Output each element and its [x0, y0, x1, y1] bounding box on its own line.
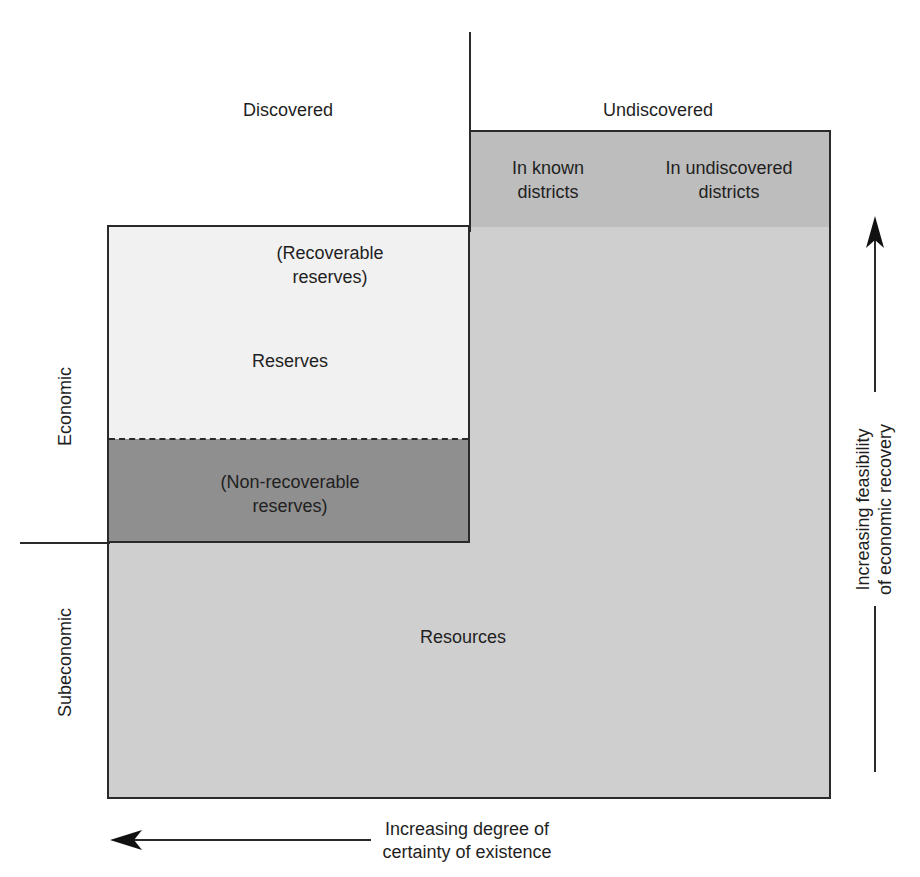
recoverable-reserves-label-1: (Recoverable [230, 242, 430, 265]
in-undiscovered-districts-label-2: districts [627, 181, 831, 204]
recoverable-reserves-label-2: reserves) [230, 266, 430, 289]
feasibility-axis-label-2: of economic recovery [874, 410, 897, 610]
resources-label: Resources [363, 626, 563, 649]
in-known-districts-label-1: In known [469, 157, 627, 180]
certainty-axis-label-2: certainty of existence [357, 841, 577, 864]
subeconomic-row-label: Subeconomic [54, 593, 77, 733]
economic-subeconomic-divider [20, 542, 110, 544]
discovered-header: Discovered [188, 99, 388, 122]
feasibility-axis-label-1: Increasing feasibility [852, 410, 875, 610]
in-known-districts-label-2: districts [469, 181, 627, 204]
certainty-arrow-icon [108, 828, 373, 852]
reserves-label: Reserves [190, 350, 390, 373]
nonrecoverable-reserves-label-1: (Non-recoverable [170, 471, 410, 494]
certainty-axis-label-1: Increasing degree of [357, 818, 577, 841]
recoverability-dashed-divider [109, 438, 468, 440]
in-undiscovered-districts-label-1: In undiscovered [627, 157, 831, 180]
economic-row-label: Economic [54, 337, 77, 477]
undiscovered-header: Undiscovered [558, 99, 758, 122]
nonrecoverable-reserves-label-2: reserves) [170, 495, 410, 518]
